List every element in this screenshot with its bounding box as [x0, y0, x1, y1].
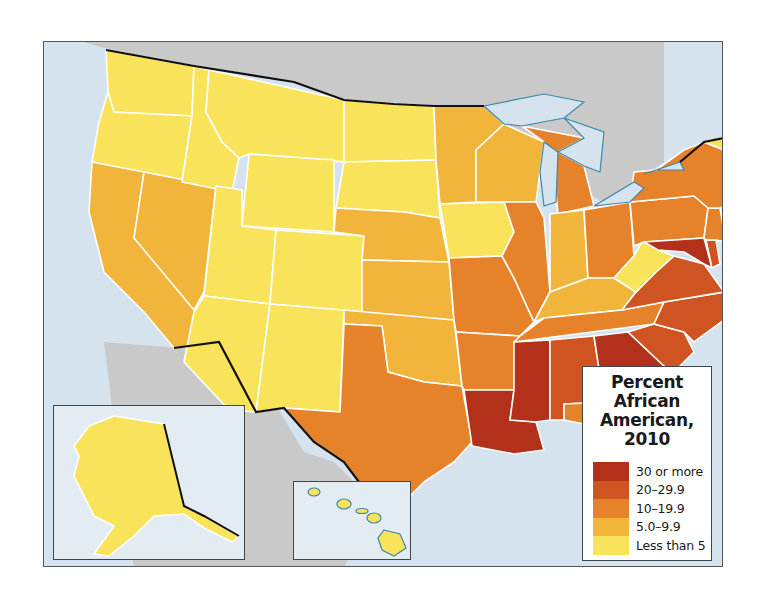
legend-label: Less than 5: [636, 538, 706, 553]
legend-label: 10–19.9: [636, 501, 685, 516]
legend-item: 5.0–9.9: [593, 518, 706, 537]
maui-island: [367, 513, 381, 523]
state-AR[interactable]: [456, 332, 520, 390]
big-island: [378, 530, 406, 556]
state-ND[interactable]: [344, 100, 436, 162]
legend-rows: 30 or more 20–29.9 10–19.9 5.0–9.9 Less …: [593, 462, 706, 555]
state-AK[interactable]: [74, 416, 239, 556]
legend-swatch: [593, 536, 629, 555]
legend-swatch: [593, 518, 629, 537]
hawaii-inset: [293, 481, 411, 560]
legend-item: 20–29.9: [593, 481, 706, 500]
state-MS[interactable]: [510, 340, 550, 422]
legend-item: 10–19.9: [593, 499, 706, 518]
legend-title-line: American,: [583, 411, 711, 430]
alaska-map: [54, 406, 244, 559]
molokai-island: [356, 509, 368, 514]
state-CO[interactable]: [270, 230, 364, 312]
legend-swatch: [593, 462, 629, 481]
hawaii-map: [294, 482, 410, 559]
legend-label: 20–29.9: [636, 482, 685, 497]
legend-title: Percent African American, 2010: [583, 373, 711, 449]
state-KS[interactable]: [362, 260, 454, 320]
oahu-island: [337, 499, 351, 509]
lake-michigan: [540, 142, 558, 206]
state-WY[interactable]: [242, 154, 334, 232]
state-NJ[interactable]: [704, 208, 723, 242]
kauai-island: [308, 488, 320, 496]
legend: Percent African American, 2010 30 or mor…: [582, 366, 712, 561]
legend-swatch: [593, 481, 629, 500]
legend-title-line: African: [583, 392, 711, 411]
legend-label: 5.0–9.9: [636, 519, 681, 534]
alaska-inset: [53, 405, 245, 560]
legend-item: Less than 5: [593, 536, 706, 555]
legend-title-line: 2010: [583, 430, 711, 449]
state-HI[interactable]: [308, 488, 406, 556]
state-IA[interactable]: [440, 202, 514, 258]
legend-title-line: Percent: [583, 373, 711, 392]
legend-item: 30 or more: [593, 462, 706, 481]
legend-label: 30 or more: [636, 464, 703, 479]
legend-swatch: [593, 499, 629, 518]
state-NM[interactable]: [256, 304, 344, 412]
